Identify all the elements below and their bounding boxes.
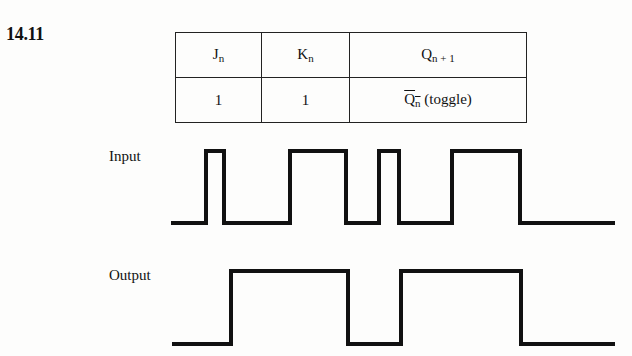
timing-diagram: [0, 0, 632, 356]
input-waveform: [171, 151, 615, 223]
output-waveform: [172, 271, 615, 344]
